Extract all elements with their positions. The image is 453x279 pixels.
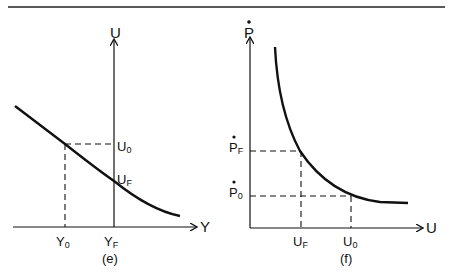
panel-f-x-axis-label: U (426, 219, 437, 236)
panel-f-tick-uf: UF (293, 234, 308, 250)
panel-f-tick-u0: U0 (343, 234, 357, 250)
panel-e: U Y U0 UF Y0 YF (e) (13, 24, 210, 266)
panel-e-tick-yf: YF (104, 234, 119, 250)
panel-f-caption: (f) (340, 251, 352, 266)
panel-e-y-axis-label: U (110, 24, 121, 41)
panel-e-tick-u0: U0 (117, 139, 131, 155)
panel-f: P U PF P0 UF U0 (f) (229, 20, 437, 266)
panel-e-x-axis-label: Y (200, 218, 210, 235)
panel-f-tick-pf-dot (232, 135, 235, 138)
panel-f-curve (275, 47, 408, 203)
panel-f-tick-p0-dot (232, 180, 235, 183)
panel-e-tick-uf: UF (117, 172, 132, 188)
panel-e-tick-y0: Y0 (56, 234, 70, 250)
panel-e-curve (15, 106, 180, 216)
panel-f-tick-p0: P0 (229, 185, 243, 201)
figure: U Y U0 UF Y0 YF (e) P U PF P0 UF U0 (f) (0, 0, 453, 279)
panel-f-y-axis-label: P (244, 24, 254, 41)
panel-f-tick-pf: PF (229, 140, 244, 156)
panel-e-caption: (e) (102, 251, 118, 266)
